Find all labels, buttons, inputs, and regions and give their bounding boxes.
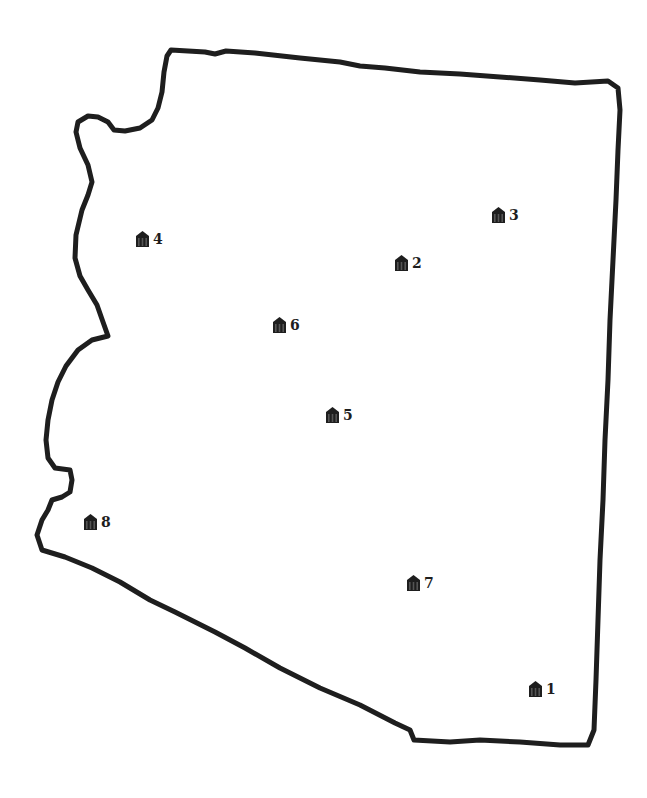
building-icon: [273, 317, 286, 333]
marker-label: 7: [424, 576, 434, 590]
marker-7[interactable]: 7: [407, 575, 434, 591]
marker-4[interactable]: 4: [136, 231, 163, 247]
marker-3[interactable]: 3: [492, 207, 519, 223]
building-icon: [529, 681, 542, 697]
marker-label: 2: [412, 256, 422, 270]
marker-label: 4: [153, 232, 163, 246]
marker-1[interactable]: 1: [529, 681, 556, 697]
marker-5[interactable]: 5: [326, 407, 353, 423]
marker-label: 3: [509, 208, 519, 222]
marker-label: 8: [101, 515, 111, 529]
marker-2[interactable]: 2: [395, 255, 422, 271]
building-icon: [395, 255, 408, 271]
building-icon: [136, 231, 149, 247]
map-outline: [0, 0, 647, 798]
marker-label: 1: [546, 682, 556, 696]
building-icon: [84, 514, 97, 530]
marker-6[interactable]: 6: [273, 317, 300, 333]
building-icon: [492, 207, 505, 223]
marker-label: 6: [290, 318, 300, 332]
marker-label: 5: [343, 408, 353, 422]
state-border: [37, 50, 620, 745]
marker-8[interactable]: 8: [84, 514, 111, 530]
building-icon: [326, 407, 339, 423]
building-icon: [407, 575, 420, 591]
